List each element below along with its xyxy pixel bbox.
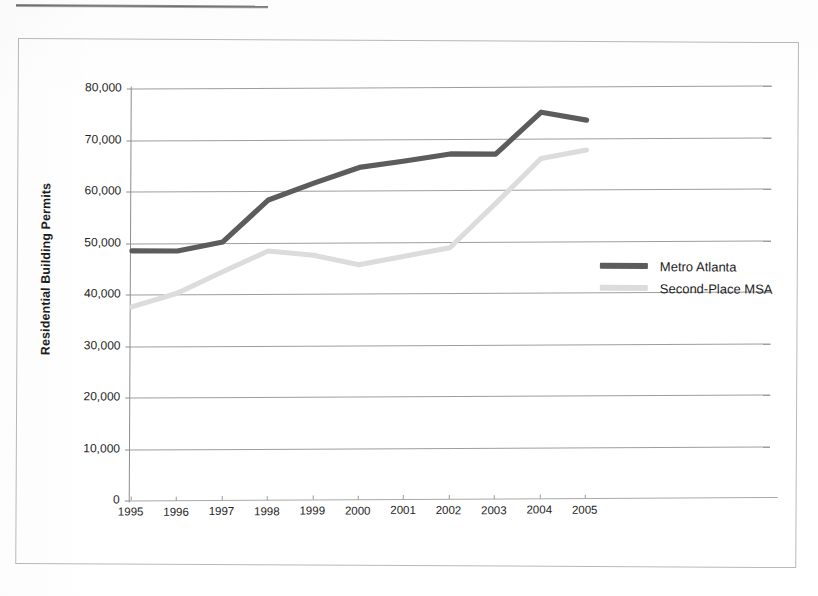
- legend-color-swatch: [600, 263, 648, 269]
- y-axis-title: Residential Building Permits: [38, 183, 53, 355]
- series-line-second-place-msa: [132, 148, 587, 309]
- scanned-figure-page: 010,00020,00030,00040,00050,00060,00070,…: [0, 0, 818, 596]
- legend-color-swatch: [600, 285, 648, 291]
- legend-item[interactable]: Metro Atlanta: [600, 255, 773, 278]
- legend-label: Metro Atlanta: [660, 259, 737, 274]
- legend-label: Second-Place MSA: [660, 281, 773, 297]
- legend-item[interactable]: Second-Place MSA: [600, 277, 773, 300]
- chart-plot-area: 010,00020,00030,00040,00050,00060,00070,…: [0, 0, 818, 596]
- chart-legend: Metro AtlantaSecond-Place MSA: [600, 255, 773, 300]
